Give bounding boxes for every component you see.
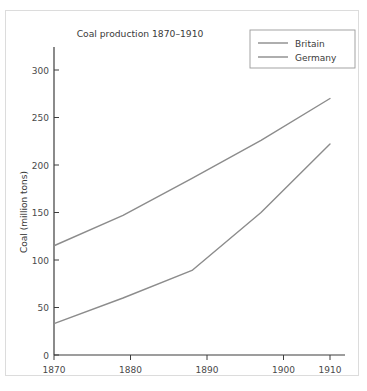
y-tick-label-100: 100 — [32, 256, 49, 266]
y-tick-label-50: 50 — [38, 303, 50, 313]
y-axis-ticks — [54, 70, 59, 355]
legend-label-germany: Germany — [295, 53, 337, 63]
x-tick-label-1880: 1880 — [119, 365, 142, 375]
y-tick-label-200: 200 — [32, 161, 49, 171]
series-line-britain — [54, 99, 330, 246]
x-axis-tick-labels: 1870 1880 1890 1900 1910 — [43, 365, 342, 375]
y-tick-label-250: 250 — [32, 113, 49, 123]
y-axis-tick-labels: 0 50 100 150 200 250 300 — [32, 66, 49, 361]
coal-production-line-chart: Coal production 1870–1910 Coal (million … — [0, 0, 367, 391]
series-line-germany — [54, 144, 330, 324]
y-tick-label-150: 150 — [32, 208, 49, 218]
y-tick-label-0: 0 — [43, 351, 49, 361]
y-axis-label: Coal (million tons) — [19, 171, 29, 253]
legend-label-britain: Britain — [295, 39, 325, 49]
x-tick-label-1900: 1900 — [272, 365, 295, 375]
x-tick-label-1890: 1890 — [196, 365, 219, 375]
x-tick-label-1870: 1870 — [43, 365, 66, 375]
y-tick-label-300: 300 — [32, 66, 49, 76]
x-axis-ticks — [54, 355, 330, 360]
chart-legend: Britain Germany — [250, 30, 355, 68]
x-tick-label-1910: 1910 — [319, 365, 342, 375]
chart-screenshot: Coal production 1870–1910 Coal (million … — [0, 0, 367, 391]
chart-title: Coal production 1870–1910 — [77, 28, 204, 39]
